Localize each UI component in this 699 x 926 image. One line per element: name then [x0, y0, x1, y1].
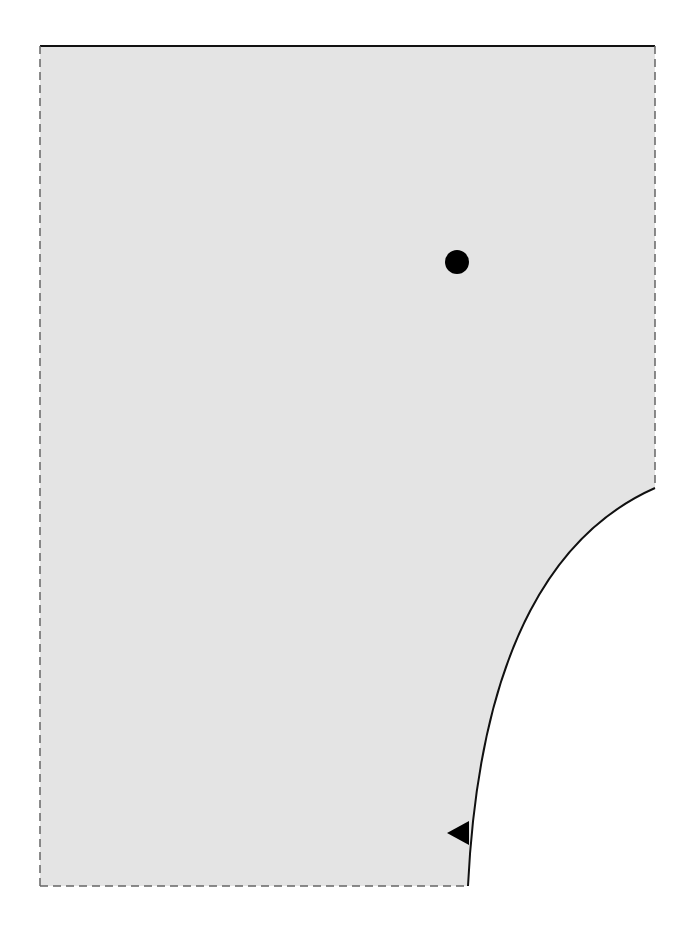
point-marker [445, 250, 469, 274]
diagram-canvas [0, 0, 699, 926]
shaded-region [40, 46, 655, 886]
